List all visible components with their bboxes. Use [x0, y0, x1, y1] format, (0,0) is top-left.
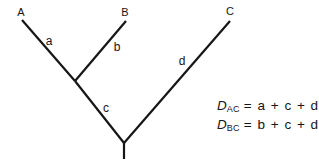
tree-diagram: A B C a b c d	[0, 0, 319, 163]
branch-label-b: b	[114, 40, 121, 54]
branch-label-a: a	[46, 34, 53, 48]
branch-label-c: c	[103, 101, 109, 115]
equation-d-ac-variable: D	[217, 98, 227, 113]
equation-d-ac-rhs: = a + c + d	[244, 98, 318, 113]
taxon-label-A: A	[17, 6, 25, 18]
distance-equations: DAC= a + c + d DBC= b + c + d	[217, 97, 318, 134]
branch-a-line	[22, 20, 75, 81]
taxon-label-C: C	[226, 5, 234, 17]
branch-d-line	[124, 21, 230, 143]
equation-d-ac: DAC= a + c + d	[217, 97, 318, 116]
equation-d-bc-subscript: BC	[227, 123, 240, 133]
equation-d-bc: DBC= b + c + d	[217, 116, 318, 135]
equation-d-bc-rhs: = b + c + d	[244, 117, 318, 132]
taxon-label-B: B	[121, 6, 128, 18]
equation-d-bc-variable: D	[217, 117, 227, 132]
equation-d-ac-subscript: AC	[227, 104, 240, 114]
branch-label-d: d	[179, 54, 186, 68]
branch-c-line	[75, 81, 124, 143]
phylogenetic-tree-figure: A B C a b c d DAC= a + c + d DBC= b + c …	[0, 0, 319, 163]
